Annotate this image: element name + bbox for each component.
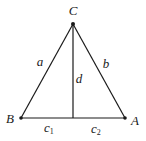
altitude-d-label: d: [76, 71, 83, 86]
vertex-c-point: [71, 22, 75, 26]
side-a-label: a: [37, 54, 44, 69]
segment-c1-subscript: 1: [50, 127, 54, 136]
segment-c2-subscript: 2: [97, 128, 101, 137]
vertex-a-label: A: [130, 113, 139, 128]
segment-c2-label: c2: [91, 121, 101, 137]
side-a: [21, 24, 73, 118]
vertex-a-point: [123, 116, 127, 120]
vertex-b-label: B: [6, 111, 14, 126]
segment-c1-label: c1: [44, 120, 54, 136]
vertex-c-label: C: [69, 3, 78, 18]
triangle-diagram: C B A a b d c1 c2: [0, 0, 146, 141]
side-b-label: b: [103, 56, 110, 71]
vertex-b-point: [19, 116, 23, 120]
